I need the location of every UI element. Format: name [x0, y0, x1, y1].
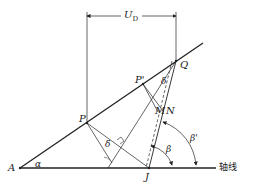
- point-label-j: J: [145, 172, 149, 182]
- point-label-p-prime: P': [135, 75, 144, 85]
- point-label-a: A: [8, 163, 15, 173]
- dimension-label: UD: [124, 10, 138, 23]
- point-label-q: Q: [180, 60, 188, 70]
- point-label-p: P: [79, 114, 86, 124]
- angle-label-delta-lower: δ: [105, 140, 110, 149]
- right-angle-mark: [117, 137, 124, 144]
- angle-label-delta-upper: δ: [161, 77, 166, 86]
- angle-label-alpha: α: [35, 160, 41, 169]
- point-label-m: M: [155, 106, 165, 116]
- angle-label-beta: β: [166, 145, 171, 154]
- line-p-j: [87, 123, 149, 168]
- diagram-lines: [0, 0, 253, 183]
- geometry-diagram: UD Q P' δ M N P δ A α J β β' 轴线: [0, 0, 253, 183]
- axis-label: 轴线: [219, 163, 237, 172]
- point-label-n: N: [166, 106, 175, 116]
- angle-label-beta-prime: β': [190, 134, 198, 143]
